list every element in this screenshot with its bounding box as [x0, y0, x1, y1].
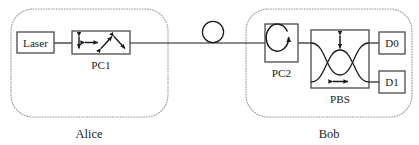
detector-d1-label: D1 — [385, 76, 398, 88]
polarizing-beam-splitter[interactable]: PBS — [311, 30, 369, 105]
detector-d1[interactable]: D1 — [379, 71, 405, 93]
pc2-box[interactable] — [265, 24, 298, 62]
alice-enclosure — [11, 9, 168, 117]
laser-source[interactable]: Laser — [17, 32, 54, 53]
detector-d0-label: D0 — [385, 37, 399, 49]
polarization-controller-2[interactable]: PC2 — [265, 24, 298, 79]
polarization-controller-1[interactable]: PC1 — [72, 31, 130, 71]
fiber-spool-coil — [202, 21, 223, 42]
detector-d0[interactable]: D0 — [379, 32, 405, 54]
pc2-label: PC2 — [272, 67, 291, 79]
laser-label: Laser — [23, 37, 48, 49]
pc1-box[interactable] — [72, 31, 130, 54]
alice-zone-label: Alice — [76, 127, 103, 141]
pbs-label: PBS — [330, 93, 350, 105]
qkd-schematic: Laser PC1 PC2 PBS D0 — [0, 0, 419, 145]
bob-zone-label: Bob — [319, 127, 340, 141]
pc1-label: PC1 — [91, 59, 110, 71]
diagram-canvas: Laser PC1 PC2 PBS D0 — [0, 0, 419, 145]
